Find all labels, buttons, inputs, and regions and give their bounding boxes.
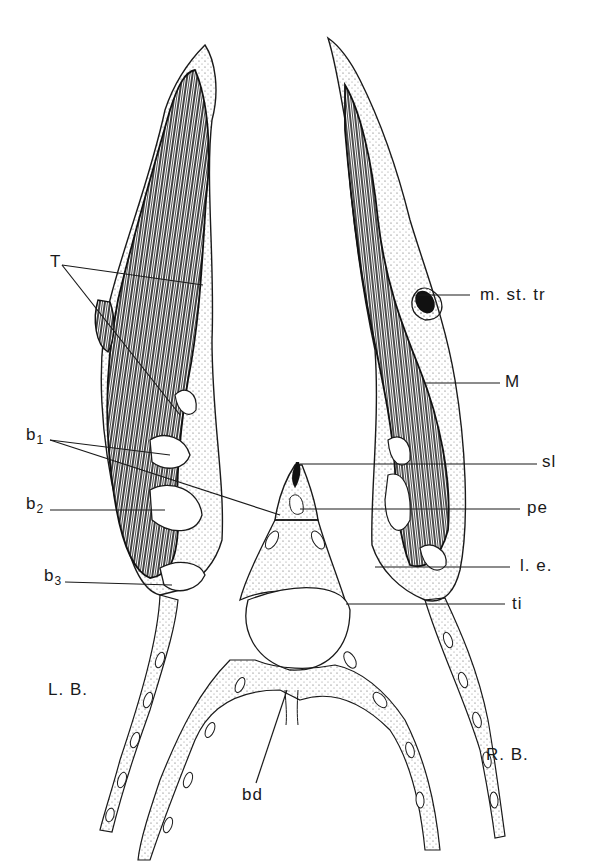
label-b2: b2 <box>26 494 44 516</box>
label-sl: sl <box>542 452 556 472</box>
label-le: l. e. <box>520 556 552 576</box>
label-right-branch: R. B. <box>486 745 529 765</box>
label-left-branch: L. B. <box>48 680 88 700</box>
anatomical-diagram <box>0 0 603 863</box>
label-b1: b1 <box>26 425 44 447</box>
right-branch <box>328 38 505 838</box>
label-ti: ti <box>512 594 523 614</box>
label-bd: bd <box>242 785 263 805</box>
ti-body <box>246 588 350 670</box>
bd-arms <box>138 660 440 860</box>
cavity-b3 <box>160 562 205 590</box>
label-T: T <box>50 252 61 272</box>
label-m-st-tr: m. st. tr <box>480 285 546 305</box>
label-b3: b3 <box>44 566 62 588</box>
label-M: M <box>505 372 520 392</box>
label-pe: pe <box>527 498 548 518</box>
